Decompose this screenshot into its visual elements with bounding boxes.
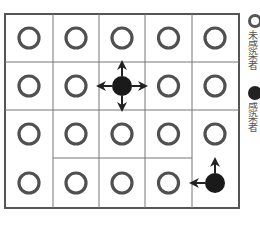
uninfected-person-icon (19, 76, 39, 96)
infection-grid-diagram: 未感染者 感染者 (0, 0, 260, 229)
uninfected-person-icon (19, 124, 39, 144)
infected-person-icon (112, 76, 132, 96)
infected-person-icon (205, 173, 225, 193)
uninfected-person-icon (112, 28, 132, 48)
grid-svg (0, 0, 260, 229)
uninfected-person-icon (66, 124, 86, 144)
legend: 未感染者 感染者 (244, 14, 260, 132)
uninfected-person-icon (66, 76, 86, 96)
uninfected-person-icon (66, 28, 86, 48)
uninfected-person-icon (205, 28, 225, 48)
uninfected-person-icon (205, 124, 225, 144)
legend-item-infected: 感染者 (244, 86, 260, 132)
uninfected-person-icon (205, 76, 225, 96)
uninfected-person-icon (159, 124, 179, 144)
legend-label-infected: 感染者 (247, 102, 258, 132)
uninfected-person-icon (19, 28, 39, 48)
legend-label-uninfected: 未感染者 (247, 30, 258, 70)
uninfected-person-icon (112, 173, 132, 193)
grid-frame (5, 14, 239, 208)
uninfected-person-icon (159, 76, 179, 96)
open-circle-icon (248, 14, 260, 28)
uninfected-person-icon (159, 28, 179, 48)
uninfected-person-icon (19, 173, 39, 193)
uninfected-person-icon (159, 173, 179, 193)
legend-item-uninfected: 未感染者 (244, 14, 260, 70)
uninfected-person-icon (112, 124, 132, 144)
filled-circle-icon (248, 86, 260, 100)
uninfected-person-icon (66, 173, 86, 193)
grid-vertical-lines (53, 14, 192, 208)
